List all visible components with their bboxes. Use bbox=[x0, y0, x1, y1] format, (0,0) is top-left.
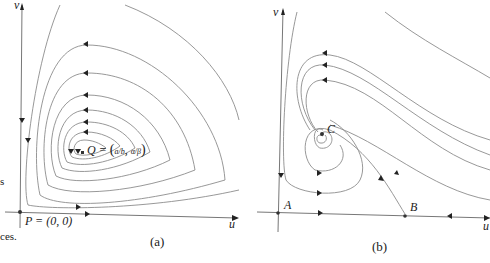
center-label-q: Q = (a/b, α/β) bbox=[87, 142, 146, 158]
paren-close: ) bbox=[141, 142, 146, 158]
spiral-core bbox=[317, 135, 327, 143]
center-point-q bbox=[81, 151, 84, 154]
u-axis-b bbox=[257, 212, 490, 218]
phase-portraits: v u bbox=[0, 0, 490, 263]
center-label-q-prefix: Q = bbox=[87, 143, 110, 157]
label-c: C bbox=[327, 122, 336, 136]
trajectory bbox=[297, 55, 490, 140]
arrow-left bbox=[83, 129, 88, 135]
u-label-b: u bbox=[483, 219, 489, 233]
edge-text-fragment: s bbox=[0, 175, 4, 187]
point-b bbox=[403, 214, 407, 218]
arrow-down-axis bbox=[19, 118, 25, 123]
arrow-left bbox=[83, 119, 88, 125]
v-axis-a bbox=[20, 5, 22, 228]
arrow-down bbox=[25, 138, 31, 143]
trajectory bbox=[283, 12, 362, 193]
trajectory bbox=[301, 65, 490, 155]
label-a: A bbox=[283, 198, 292, 212]
arrow-left bbox=[83, 41, 88, 47]
separatrix-b bbox=[330, 130, 405, 214]
focus-point-c bbox=[320, 132, 324, 136]
arrow-right-axis bbox=[85, 211, 90, 217]
v-axis-arrowhead-a bbox=[20, 3, 24, 10]
orbit-outer-top bbox=[125, 5, 239, 120]
trajectory-top bbox=[385, 12, 490, 78]
spiral-outer bbox=[305, 128, 343, 171]
v-label-a: v bbox=[14, 0, 20, 12]
v-axis-b bbox=[278, 10, 283, 232]
center-coord-y: α/β bbox=[131, 147, 141, 156]
arrow-down bbox=[68, 149, 74, 154]
arrow-left bbox=[322, 77, 327, 83]
arrow-up bbox=[394, 170, 399, 175]
trajectories-b bbox=[283, 12, 490, 214]
caption-b: (b) bbox=[372, 239, 387, 254]
origin-label-p: P = (0, 0) bbox=[24, 214, 72, 228]
center-coord-x: a/b bbox=[114, 147, 124, 156]
trajectory bbox=[330, 125, 490, 200]
arrow-up bbox=[378, 175, 384, 181]
orbit-2 bbox=[44, 73, 195, 192]
arrow-left bbox=[83, 70, 88, 76]
panel-a: v u bbox=[5, 0, 239, 249]
v-axis-arrowhead-b bbox=[281, 8, 285, 15]
arrow-right bbox=[76, 204, 81, 210]
arrow-right bbox=[317, 190, 322, 196]
panel-b: v u C A bbox=[257, 5, 490, 254]
arrow-left bbox=[322, 62, 327, 68]
origin-point-p bbox=[18, 210, 22, 214]
u-label-a: u bbox=[229, 217, 235, 231]
orbits-a bbox=[26, 5, 239, 208]
orbit-4 bbox=[58, 110, 150, 171]
arrow-left-axis bbox=[447, 213, 452, 219]
point-a bbox=[276, 211, 280, 215]
label-b: B bbox=[410, 200, 418, 214]
v-label-b: v bbox=[273, 5, 279, 19]
arrow-left bbox=[83, 107, 88, 113]
arrow-right-axis bbox=[318, 210, 323, 216]
edge-text-fragment: ces. bbox=[0, 230, 17, 242]
caption-a: (a) bbox=[150, 234, 164, 249]
arrow-left bbox=[83, 92, 88, 98]
